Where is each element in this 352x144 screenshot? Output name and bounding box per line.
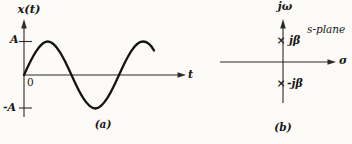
pole-lower-label: -jβ (287, 78, 303, 89)
t-axis-arrow-icon (178, 72, 187, 77)
panel-a-axes (19, 27, 180, 117)
pole-lower-x-icon: × (276, 78, 285, 89)
jw-axis-arrow-icon (280, 19, 286, 29)
figure-canvas (0, 0, 352, 144)
xt-axis-label: x(t) (17, 4, 40, 16)
panel-a-caption: (a) (95, 119, 112, 130)
origin-label: 0 (27, 77, 34, 88)
sigma-axis-arrow-icon (328, 59, 337, 64)
sigma-axis-label: σ (339, 55, 347, 66)
jw-axis-label: jω (278, 1, 292, 12)
xt-axis-arrow-icon (21, 19, 27, 29)
pole-upper-x-icon: × (276, 35, 285, 46)
figure: x(t) A -A 0 t (a) jω s-plane × jβ × -jβ … (0, 0, 352, 144)
panel-b-axes (220, 27, 330, 103)
panel-b-caption: (b) (274, 122, 291, 133)
s-plane-label: s-plane (307, 24, 345, 35)
amplitude-upper-label: A (10, 34, 19, 45)
amplitude-lower-label: -A (3, 102, 16, 113)
t-axis-label: t (188, 69, 193, 80)
pole-upper-label: jβ (289, 35, 300, 46)
